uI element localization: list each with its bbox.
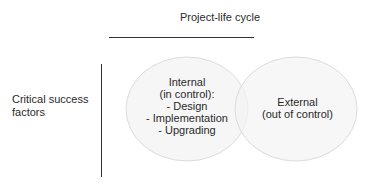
external-set-label: External (out of control) bbox=[250, 96, 345, 120]
internal-item-upgrading: - Upgrading bbox=[132, 124, 242, 136]
internal-set-label: Internal (in control): - Design - Implem… bbox=[132, 76, 242, 136]
external-title: External bbox=[250, 96, 345, 108]
external-subtitle: (out of control) bbox=[250, 108, 345, 120]
internal-item-design: - Design bbox=[132, 100, 242, 112]
internal-item-implementation: - Implementation bbox=[132, 112, 242, 124]
internal-title: Internal bbox=[132, 76, 242, 88]
internal-subtitle: (in control): bbox=[132, 88, 242, 100]
